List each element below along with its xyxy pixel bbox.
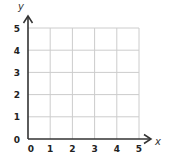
y-tick-label: 2 (14, 90, 20, 100)
x-tick-label: 4 (114, 144, 120, 154)
x-tick-label: 2 (69, 144, 75, 154)
x-tick-label: 5 (136, 144, 142, 154)
coordinate-plane: 012345 012345 x y (0, 0, 170, 160)
x-tick-label: 3 (91, 144, 97, 154)
grid (28, 28, 139, 139)
axes (24, 16, 152, 144)
x-tick-label: 1 (47, 144, 53, 154)
y-tick-label: 5 (14, 24, 20, 34)
y-axis-label: y (17, 1, 25, 12)
y-tick-label: 4 (14, 46, 20, 56)
x-tick-labels: 012345 (28, 144, 142, 154)
y-tick-label: 0 (14, 135, 20, 145)
y-tick-label: 3 (14, 68, 20, 78)
y-tick-label: 1 (14, 112, 20, 122)
x-tick-label: 0 (28, 144, 34, 154)
x-axis-label: x (154, 136, 161, 147)
y-tick-labels: 012345 (14, 24, 20, 145)
